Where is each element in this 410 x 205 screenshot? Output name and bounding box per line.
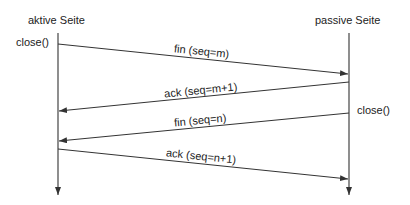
close-annotation-right: close() [357,104,390,116]
sequence-diagram-canvas [0,0,410,205]
close-annotation-left: close() [16,36,49,48]
participant-right-label: passive Seite [315,14,380,26]
participant-left-label: aktive Seite [28,14,85,26]
